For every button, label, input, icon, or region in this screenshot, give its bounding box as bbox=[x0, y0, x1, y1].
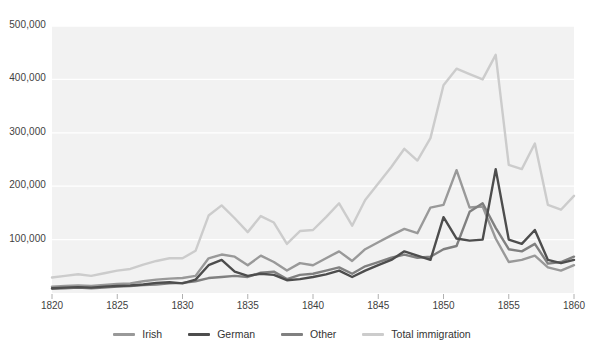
x-tick-label-1825: 1825 bbox=[97, 300, 137, 311]
legend-item-irish[interactable]: Irish bbox=[113, 328, 162, 340]
legend-swatch-irish bbox=[113, 333, 135, 336]
plot-background-group bbox=[52, 26, 574, 293]
x-tick-marks-group bbox=[52, 294, 574, 299]
plot-background bbox=[52, 26, 574, 293]
legend-label-other: Other bbox=[310, 328, 336, 340]
legend-label-irish: Irish bbox=[142, 328, 162, 340]
x-tick-label-1820: 1820 bbox=[32, 300, 72, 311]
legend-item-german[interactable]: German bbox=[188, 328, 255, 340]
legend-item-other[interactable]: Other bbox=[281, 328, 336, 340]
x-tick-label-1830: 1830 bbox=[163, 300, 203, 311]
x-tick-label-1855: 1855 bbox=[489, 300, 529, 311]
y-tick-label-500000: 500,000 bbox=[0, 19, 46, 30]
legend-label-total-immigration: Total immigration bbox=[391, 328, 470, 340]
legend-swatch-other bbox=[281, 333, 303, 336]
y-tick-label-300000: 300,000 bbox=[0, 126, 46, 137]
y-tick-label-200000: 200,000 bbox=[0, 179, 46, 190]
y-tick-label-100000: 100,000 bbox=[0, 233, 46, 244]
y-tick-label-400000: 400,000 bbox=[0, 72, 46, 83]
x-tick-label-1840: 1840 bbox=[293, 300, 333, 311]
x-tick-label-1835: 1835 bbox=[228, 300, 268, 311]
legend-label-german: German bbox=[217, 328, 255, 340]
chart-legend: IrishGermanOtherTotal immigration bbox=[0, 328, 584, 340]
x-tick-label-1845: 1845 bbox=[358, 300, 398, 311]
legend-swatch-german bbox=[188, 333, 210, 336]
x-tick-label-1860: 1860 bbox=[554, 300, 590, 311]
x-tick-label-1850: 1850 bbox=[424, 300, 464, 311]
legend-item-total-immigration[interactable]: Total immigration bbox=[362, 328, 470, 340]
legend-swatch-total-immigration bbox=[362, 333, 384, 336]
